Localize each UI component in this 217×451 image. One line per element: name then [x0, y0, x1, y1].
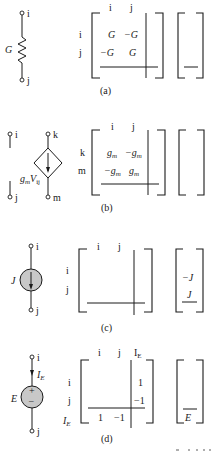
terminal-i-label: i: [27, 8, 30, 19]
rhs-right-bracket: [196, 360, 203, 423]
col-header-j: j: [129, 2, 133, 13]
row-label-k: k: [80, 147, 85, 158]
panel-b: i j k m gmVij i j k m gm −gm: [8, 121, 204, 214]
matrix-left-bracket: [92, 13, 100, 78]
col-header-i: i: [111, 121, 114, 132]
col-header-j: j: [117, 347, 121, 358]
terminal-j-label: j: [26, 75, 30, 86]
matrix-d: i j IE i j IE 1 −1 1 −1: [62, 347, 153, 428]
current-source-element: i j J: [11, 241, 42, 316]
terminal-m: [46, 195, 50, 199]
branch-current-label: IE: [36, 369, 45, 382]
row-label-i: i: [79, 29, 82, 40]
matrix-right-bracket: [144, 249, 152, 312]
caption-c: (c): [101, 322, 112, 334]
matrix-right-bracket: [155, 13, 163, 78]
cell-2-1: −1: [114, 412, 125, 423]
rhs-entry-1: J: [187, 289, 192, 300]
row-label-j: j: [65, 284, 69, 295]
terminal-j: [20, 78, 24, 82]
terminal-i-label: i: [15, 129, 18, 140]
panel-c: i j J i j i j −J J (c): [11, 241, 203, 334]
current-arrow-icon: [30, 370, 34, 376]
plus-sign: +: [29, 385, 35, 396]
col-header-i: i: [109, 2, 112, 13]
terminal-j-label: j: [35, 305, 39, 316]
rhs-vector-d: E: [177, 360, 203, 423]
matrix-left-bracket: [79, 249, 87, 312]
matrix-c: i j i j: [65, 241, 152, 315]
rhs-left-bracket: [179, 130, 186, 195]
caption-d: (d): [101, 433, 113, 445]
col-header-j: j: [117, 241, 121, 252]
terminal-j: [29, 308, 33, 312]
row-label-j: j: [78, 47, 82, 58]
cell-0-1: −G: [124, 29, 138, 40]
col-header-ie: IE: [134, 347, 142, 360]
current-source-label: J: [11, 275, 16, 286]
rhs-left-bracket: [177, 360, 184, 423]
cell-0-0: gm: [107, 147, 117, 160]
col-header-j: j: [131, 121, 135, 132]
row-label-i: i: [66, 265, 69, 276]
rhs-vector-a: [178, 13, 203, 78]
terminal-k: [46, 132, 50, 136]
rhs-left-bracket: [178, 13, 185, 78]
matrix-left-bracket: [81, 360, 89, 423]
row-label-j: j: [67, 395, 71, 406]
cell-1-0: −G: [100, 47, 114, 58]
terminal-i: [29, 244, 33, 248]
matrix-right-bracket: [146, 360, 153, 423]
terminal-j-label: j: [14, 192, 18, 203]
terminal-j: [8, 195, 12, 199]
terminal-m-label: m: [53, 192, 61, 203]
minus-sign: −: [29, 396, 35, 407]
row-label-m: m: [78, 165, 86, 176]
panel-d: i IE + − j E i j IE i j IE 1 −1 1 −1: [10, 347, 203, 445]
cell-0-2: 1: [138, 377, 143, 388]
matrix-b: i j k m gm −gm −gm gm: [78, 121, 165, 195]
conductance-element: i j G: [5, 8, 30, 86]
terminal-j: [30, 429, 34, 433]
rhs-entry-2: E: [184, 412, 191, 423]
rhs-entry-0: −J: [182, 272, 194, 283]
rhs-right-bracket: [196, 13, 203, 78]
terminal-i-label: i: [36, 241, 39, 252]
col-header-i: i: [98, 347, 101, 358]
gain-label: gmVij: [20, 173, 40, 186]
matrix-left-bracket: [92, 130, 100, 195]
cell-1-2: −1: [134, 395, 145, 406]
voltage-source-label: E: [10, 393, 17, 404]
rhs-right-bracket: [196, 249, 203, 312]
cell-0-1: −gm: [125, 147, 142, 160]
terminal-k-label: k: [53, 129, 58, 140]
cell-0-0: G: [108, 29, 115, 40]
terminal-i: [20, 11, 24, 15]
cell-1-1: G: [129, 47, 136, 58]
rhs-vector-c: −J J: [176, 249, 203, 312]
cell-2-0: 1: [98, 412, 103, 423]
matrix-a: i j i j G −G −G G: [78, 2, 163, 78]
col-header-i: i: [97, 241, 100, 252]
row-label-ie: IE: [62, 415, 71, 428]
rhs-right-bracket: [197, 130, 204, 195]
resistor-icon: [18, 37, 26, 63]
terminal-i: [30, 355, 34, 359]
caption-a: (a): [100, 85, 111, 97]
vccs-element: i j k m gmVij: [8, 129, 62, 203]
terminal-j-label: j: [36, 426, 40, 437]
rhs-vector-b: [179, 130, 204, 195]
row-label-i: i: [68, 377, 71, 388]
conductance-label: G: [5, 44, 12, 55]
cell-1-1: gm: [129, 165, 139, 178]
voltage-source-element: i IE + − j E: [10, 352, 45, 437]
panel-a: i j G i j i j G −G −G G (a): [5, 2, 203, 97]
matrix-right-bracket: [157, 130, 165, 195]
terminal-i-label: i: [37, 352, 40, 363]
caption-b: (b): [101, 202, 113, 214]
terminal-i: [8, 132, 12, 136]
cell-1-0: −gm: [104, 165, 121, 178]
